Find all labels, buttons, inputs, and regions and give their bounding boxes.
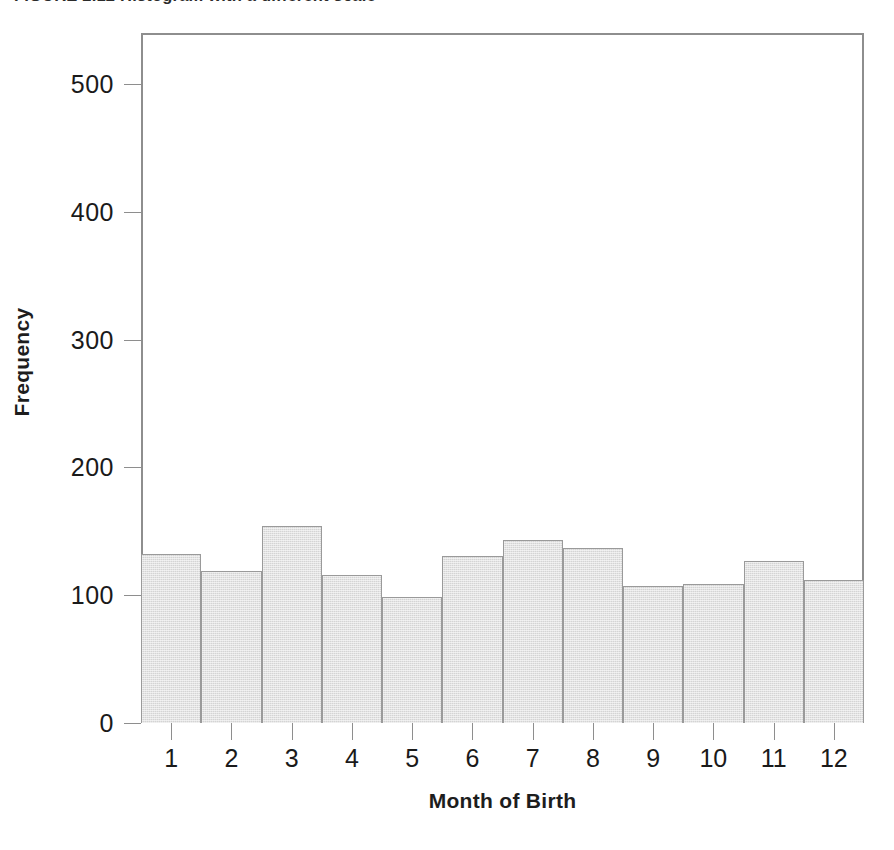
histogram-bar — [683, 584, 743, 723]
histogram-bar — [442, 556, 502, 723]
y-axis-tick-label: 500 — [0, 70, 114, 99]
y-axis-title-text: Frequency — [10, 307, 34, 416]
x-axis-tick — [713, 723, 714, 740]
y-axis-tick — [124, 340, 141, 341]
x-axis-tick — [533, 723, 534, 740]
x-axis-tick — [171, 723, 172, 740]
x-axis-tick — [352, 723, 353, 740]
histogram-bar — [563, 548, 623, 723]
x-axis-tick — [774, 723, 775, 740]
x-axis-tick — [593, 723, 594, 740]
y-axis-tick-label: 100 — [0, 581, 114, 610]
y-axis-tick — [124, 84, 141, 85]
histogram-bar — [141, 554, 201, 723]
y-axis-tick — [124, 212, 141, 213]
y-axis-tick-label: 0 — [0, 709, 114, 738]
y-axis-tick-label: 400 — [0, 197, 114, 226]
y-axis-tick — [124, 467, 141, 468]
y-axis-tick-label: 200 — [0, 453, 114, 482]
figure-histogram-month-of-birth: FIGURE 2.12 Histogram with a different s… — [0, 0, 894, 850]
histogram-bar — [503, 540, 563, 723]
x-axis-tick — [653, 723, 654, 740]
histogram-bar — [744, 561, 804, 723]
x-axis-tick — [412, 723, 413, 740]
figure-caption: FIGURE 2.12 Histogram with a different s… — [14, 0, 874, 6]
histogram-bar — [382, 597, 442, 724]
x-axis-tick — [472, 723, 473, 740]
x-axis-tick — [834, 723, 835, 740]
x-axis-tick-label: 12 — [799, 744, 869, 773]
x-axis-title: Month of Birth — [141, 789, 864, 813]
histogram-bar — [623, 586, 683, 723]
histogram-bar — [804, 580, 864, 723]
x-axis-tick — [292, 723, 293, 740]
y-axis-tick-label: 300 — [0, 325, 114, 354]
y-axis-tick — [124, 595, 141, 596]
y-axis-title: Frequency — [0, 0, 44, 723]
histogram-bar — [201, 571, 261, 723]
histogram-bar — [262, 526, 322, 723]
y-axis-tick — [124, 723, 141, 724]
x-axis-tick — [231, 723, 232, 740]
bars-layer — [141, 33, 864, 723]
histogram-bar — [322, 575, 382, 723]
